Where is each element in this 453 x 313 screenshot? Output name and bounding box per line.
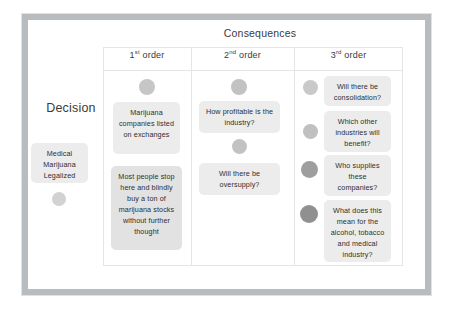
third-order-bullet-4-icon: [300, 205, 318, 223]
third-order-note-3: Who supplies these companies?: [324, 155, 391, 196]
decision-title: Decision: [28, 101, 114, 115]
second-order-bullet-1-icon: [231, 79, 247, 95]
first-order-note-2: Most people stop here and blindly buy a …: [111, 166, 182, 250]
column-header-suffix: order: [140, 50, 165, 60]
column-header-suffix: order: [236, 50, 261, 60]
decision-note: Medical Marijuana Legalized: [31, 143, 88, 183]
column-header-third-order: 3rd order: [294, 50, 403, 60]
grid-column-divider-1: [191, 48, 192, 265]
consequences-title: Consequences: [190, 27, 330, 39]
decision-bullet-icon: [52, 192, 66, 206]
first-order-note-1: Marijuana companies listed on exchanges: [113, 102, 180, 154]
third-order-bullet-2-icon: [303, 124, 318, 139]
grid-column-divider-2: [294, 48, 295, 265]
grid-header-divider: [104, 70, 402, 71]
third-order-bullet-3-icon: [301, 161, 318, 178]
third-order-note-4: What does this mean for the alcohol, tob…: [324, 200, 391, 262]
second-order-note-1: How profitable is the industry?: [199, 101, 280, 133]
third-order-note-2: Which other industries will benefit?: [324, 111, 391, 152]
column-header-first-order: 1st order: [103, 50, 191, 60]
first-order-bullet-1-icon: [139, 79, 155, 95]
diagram-canvas: Consequences Decision Medical Marijuana …: [0, 0, 453, 313]
column-header-second-order: 2nd order: [191, 50, 294, 60]
second-order-bullet-2-icon: [232, 139, 247, 154]
third-order-bullet-1-icon: [303, 80, 318, 95]
third-order-note-1: Will there be consolidation?: [324, 76, 391, 106]
second-order-note-2: Will there be oversupply?: [199, 163, 280, 195]
column-header-suffix: order: [342, 50, 367, 60]
